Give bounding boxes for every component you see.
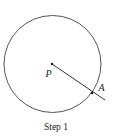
center-point-dot: [51, 63, 54, 66]
point-a-dot: [91, 92, 94, 95]
label-a: A: [98, 82, 106, 93]
label-p: P: [45, 68, 52, 79]
caption: Step 1: [44, 122, 68, 132]
construction-diagram: P A Step 1: [0, 0, 113, 137]
